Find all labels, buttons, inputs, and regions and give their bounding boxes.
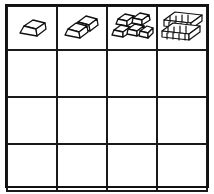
answer-area[interactable] <box>108 98 156 143</box>
answer-area[interactable] <box>158 145 206 190</box>
answer-area[interactable] <box>58 98 106 143</box>
worksheet-canvas <box>0 0 214 194</box>
grid-cell-r2c4[interactable] <box>157 50 207 97</box>
block-stack-cell-4 <box>158 7 206 49</box>
answer-area[interactable] <box>8 51 56 96</box>
grid-cell-r4c4[interactable] <box>157 144 207 191</box>
grid-cell-r1c3[interactable] <box>107 6 157 50</box>
table-row <box>7 144 207 191</box>
block-stack-icon <box>158 9 206 47</box>
answer-area[interactable] <box>158 98 206 143</box>
block-stack-cell-3 <box>108 7 156 49</box>
grid-cell-r4c2[interactable] <box>57 144 107 191</box>
block-stack-icon <box>109 10 155 46</box>
answer-area[interactable] <box>58 145 106 190</box>
grid-cell-r3c1[interactable] <box>7 97 57 144</box>
table-row <box>7 97 207 144</box>
answer-area[interactable] <box>58 51 106 96</box>
block-stack-cell-1 <box>8 7 56 49</box>
grid-cell-r2c1[interactable] <box>7 50 57 97</box>
grid-cell-r3c3[interactable] <box>107 97 157 144</box>
block-stack-icon <box>60 12 104 44</box>
grid-cell-r1c4[interactable] <box>157 6 207 50</box>
grid-cell-r3c2[interactable] <box>57 97 107 144</box>
grid-cell-r2c3[interactable] <box>107 50 157 97</box>
table-row <box>7 6 207 50</box>
answer-area[interactable] <box>108 51 156 96</box>
answer-area[interactable] <box>158 51 206 96</box>
grid-cell-r1c1[interactable] <box>7 6 57 50</box>
block-stack-cell-2 <box>58 7 106 49</box>
answer-area[interactable] <box>108 145 156 190</box>
answer-area[interactable] <box>8 98 56 143</box>
grid-cell-r1c2[interactable] <box>57 6 107 50</box>
table-row <box>7 50 207 97</box>
grid-cell-r3c4[interactable] <box>157 97 207 144</box>
block-stack-icon <box>12 15 52 41</box>
grid-cell-r4c1[interactable] <box>7 144 57 191</box>
grid-cell-r4c3[interactable] <box>107 144 157 191</box>
pattern-grid <box>6 5 208 192</box>
grid-cell-r2c2[interactable] <box>57 50 107 97</box>
answer-area[interactable] <box>8 145 56 190</box>
